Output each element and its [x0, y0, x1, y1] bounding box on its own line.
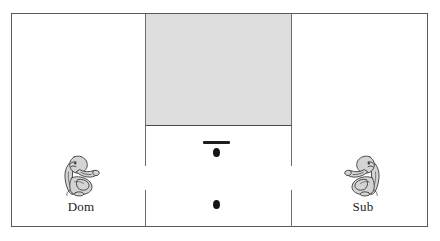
partition-wall-left-lower — [145, 190, 146, 227]
figure-root: Dom Sub — [0, 0, 440, 241]
lever-bar-icon — [203, 141, 230, 144]
lower-reward-dot-icon — [213, 200, 220, 209]
partition-wall-left-upper — [145, 126, 146, 166]
monkey-sitting-icon-dominant — [58, 148, 104, 198]
actor-label-dominant: Dom — [46, 199, 116, 215]
actor-label-subordinate: Sub — [328, 199, 398, 215]
upper-reward-dot-icon — [213, 148, 220, 157]
monkey-sitting-icon-subordinate — [340, 148, 386, 198]
partition-wall-right-lower — [291, 190, 292, 227]
shaded-upper-chamber — [145, 14, 292, 126]
partition-wall-right-upper — [291, 126, 292, 166]
